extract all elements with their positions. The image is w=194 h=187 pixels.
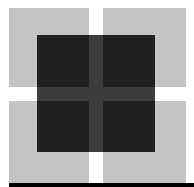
bottom-bar	[9, 183, 194, 187]
illusion-figure	[0, 0, 194, 187]
dark-cross-horizontal	[37, 87, 155, 101]
dark-overlay-box	[37, 35, 155, 152]
